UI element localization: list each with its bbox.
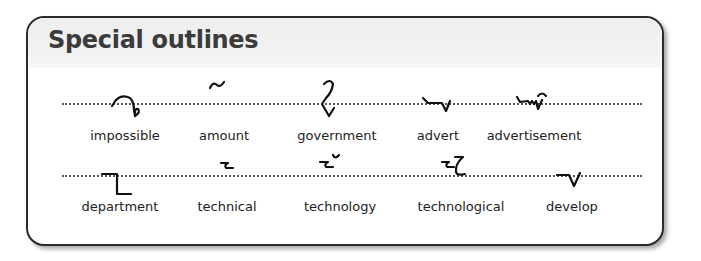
technological-outline-icon <box>439 154 473 182</box>
develop-outline-icon <box>554 168 588 190</box>
word-label: technological <box>418 199 505 214</box>
technology-outline-icon <box>317 150 343 172</box>
word-label: develop <box>546 199 598 214</box>
word-label: technology <box>304 199 376 214</box>
department-outline-icon <box>98 168 134 200</box>
word-label: department <box>82 199 159 214</box>
special-outlines-panel: Special outlines impossible amount gover… <box>26 16 664 246</box>
advert-outline-icon <box>420 95 456 117</box>
word-label: technical <box>197 199 256 214</box>
panel-title: Special outlines <box>48 26 258 54</box>
word-label: government <box>297 128 376 143</box>
impossible-outline-icon <box>108 80 148 120</box>
word-label: advertisement <box>487 128 582 143</box>
word-label: amount <box>199 128 249 143</box>
ruled-line-row-1 <box>62 103 642 105</box>
technical-outline-icon <box>218 158 238 172</box>
government-outline-icon <box>318 78 340 122</box>
word-label: advert <box>417 128 459 143</box>
amount-outline-icon <box>208 78 228 92</box>
word-label: impossible <box>90 128 160 143</box>
panel-header: Special outlines <box>28 18 662 68</box>
advertisement-outline-icon <box>514 88 554 116</box>
